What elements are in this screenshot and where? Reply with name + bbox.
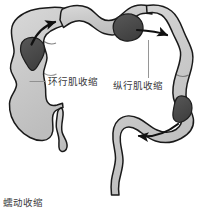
figure-caption: 蠕动收缩 xyxy=(3,197,43,209)
fecal-mass-hepatic-flexure xyxy=(113,14,143,41)
colon-illustration xyxy=(0,0,216,209)
label-longitudinal-muscle-contraction: 纵行肌收缩 xyxy=(113,80,163,91)
label-circular-muscle-contraction: 环行肌收缩 xyxy=(48,76,98,87)
appendix xyxy=(56,108,67,152)
haustra-line-left xyxy=(44,42,56,44)
peristalsis-colon-diagram: 环行肌收缩 纵行肌收缩 蠕动收缩 xyxy=(0,0,216,209)
